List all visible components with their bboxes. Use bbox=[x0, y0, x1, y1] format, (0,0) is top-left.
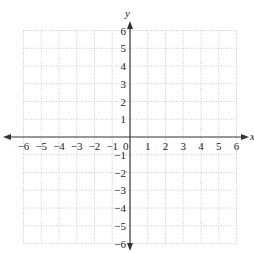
y-tick-label: −5 bbox=[114, 220, 126, 232]
y-tick-label: 3 bbox=[121, 78, 127, 90]
x-axis-label: x bbox=[249, 130, 254, 142]
x-tick-label: 4 bbox=[198, 140, 204, 152]
x-tick-label: 1 bbox=[145, 140, 151, 152]
x-tick-label: −4 bbox=[53, 140, 65, 152]
y-tick-label: 2 bbox=[121, 96, 127, 108]
y-tick-label: 6 bbox=[121, 25, 127, 37]
y-axis-label: y bbox=[124, 7, 130, 19]
x-axis-arrow-right-icon bbox=[241, 134, 249, 140]
y-axis-arrow-down-icon bbox=[127, 243, 133, 251]
x-tick-label: −6 bbox=[18, 140, 30, 152]
axes: x y bbox=[3, 7, 254, 251]
y-tick-label: 1 bbox=[121, 113, 127, 125]
x-tick-label: −2 bbox=[89, 140, 101, 152]
y-tick-label: −6 bbox=[114, 238, 126, 250]
y-axis-arrow-up-icon bbox=[127, 21, 133, 29]
x-tick-label: −5 bbox=[35, 140, 47, 152]
x-tick-label: 3 bbox=[181, 140, 187, 152]
y-tick-label: 5 bbox=[121, 42, 127, 54]
x-tick-label: 2 bbox=[163, 140, 169, 152]
y-tick-label: 4 bbox=[121, 60, 127, 72]
x-tick-label: 5 bbox=[216, 140, 222, 152]
y-tick-label: −3 bbox=[114, 184, 126, 196]
x-tick-labels: −6−5−4−3−2−10123456 bbox=[18, 140, 240, 152]
x-axis-arrow-left-icon bbox=[3, 134, 11, 140]
y-tick-label: −4 bbox=[114, 202, 126, 214]
y-tick-label: −2 bbox=[114, 167, 126, 179]
x-tick-label: −3 bbox=[71, 140, 83, 152]
coordinate-plane: x y −6−5−4−3−2−10123456 123456−1−2−3−4−5… bbox=[0, 0, 254, 253]
y-tick-label: −1 bbox=[114, 149, 126, 161]
x-tick-label: 6 bbox=[234, 140, 240, 152]
